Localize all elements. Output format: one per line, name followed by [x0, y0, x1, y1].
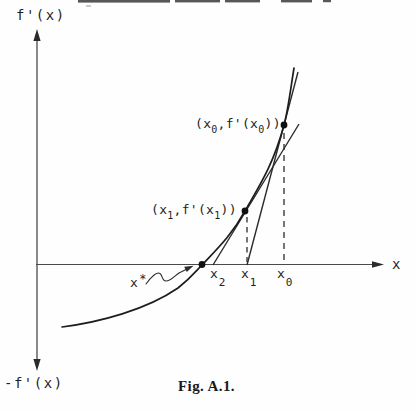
tick-x1: x1	[241, 267, 255, 282]
subscript: 1	[167, 210, 173, 222]
point-x0-dot	[281, 122, 288, 129]
x-axis-label: x	[392, 256, 402, 272]
subscript: 0	[286, 277, 293, 290]
annotation-x-star: x*	[130, 276, 146, 291]
annotation-point-x1: (x1,f'(x1))	[151, 203, 237, 218]
tick-text: x	[241, 266, 249, 281]
tick-text: x	[210, 266, 218, 281]
y-axis-bottom-label: -f'(x)	[4, 375, 64, 391]
y-axis-arrowhead-top	[33, 29, 40, 41]
annotation-text: ,f'(x	[218, 116, 259, 131]
squiggle-arrow	[146, 269, 188, 285]
annotation-text: x	[130, 275, 138, 290]
subscript: 0	[258, 124, 264, 136]
squiggle-arrowhead	[184, 266, 193, 272]
tick-x0: x0	[277, 267, 291, 282]
figure-caption-text: Fig. A.1.	[178, 378, 235, 394]
annotation-text: ))	[221, 202, 237, 217]
subscript: 1	[250, 277, 257, 290]
tick-x2: x2	[210, 267, 224, 282]
figure-a1: f'(x) -f'(x) x (x0,f'(x0)) (x1,f'(x1)) x…	[0, 0, 416, 410]
subscript: 0	[211, 124, 217, 136]
y-axis-top-label-text: f'(x)	[16, 7, 66, 23]
point-x1-dot	[242, 208, 249, 215]
annotation-text: ,f'(x	[174, 202, 215, 217]
tick-text: x	[277, 266, 285, 281]
y-axis-top-label: f'(x)	[16, 7, 66, 23]
subscript: 2	[219, 277, 226, 290]
annotation-text: (x	[195, 116, 211, 131]
annotation-text: (x	[151, 202, 167, 217]
annotation-text: ))	[265, 116, 281, 131]
y-axis-bottom-label-text: -f'(x)	[4, 375, 64, 391]
annotation-point-x0: (x0,f'(x0))	[195, 117, 281, 132]
x-axis-label-text: x	[392, 256, 402, 272]
x-axis-arrowhead	[372, 261, 384, 268]
superscript: *	[139, 273, 147, 287]
y-axis-arrowhead-bottom	[33, 359, 40, 371]
tangent-at-x1	[213, 124, 299, 265]
scan-artifact	[78, 0, 331, 7]
figure-caption: Fig. A.1.	[178, 378, 235, 395]
root-dot	[199, 261, 206, 268]
derivative-curve	[62, 68, 294, 327]
subscript: 1	[214, 210, 220, 222]
